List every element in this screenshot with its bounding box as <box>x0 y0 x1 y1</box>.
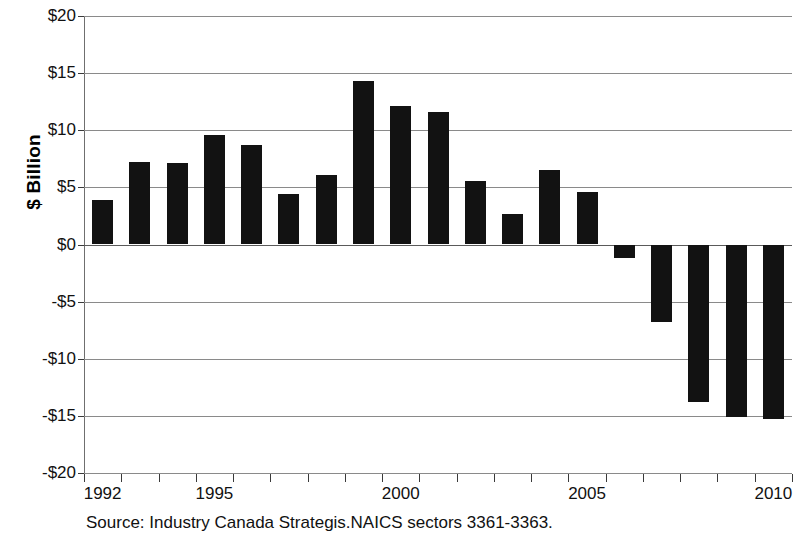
source-caption: Source: Industry Canada Strategis.NAICS … <box>86 513 553 533</box>
bar <box>316 175 337 245</box>
gridline <box>84 359 792 360</box>
bar <box>577 192 598 245</box>
bar <box>129 162 150 244</box>
bar-chart-figure: $ Billion $20$15$10$5$0-$5-$10-$15-$20 1… <box>0 0 800 544</box>
bar <box>241 145 262 244</box>
bar <box>390 106 411 244</box>
x-tick-mark <box>308 474 309 482</box>
bar <box>539 170 560 244</box>
bar <box>204 135 225 245</box>
bar <box>92 200 113 245</box>
x-tick-label: 2000 <box>382 484 420 504</box>
x-tick-mark <box>494 474 495 482</box>
bar <box>278 194 299 244</box>
y-tick-label: $0 <box>0 235 76 255</box>
x-tick-mark <box>568 474 569 482</box>
x-tick-mark <box>233 474 234 482</box>
y-tick-label: -$5 <box>0 292 76 312</box>
x-tick-mark <box>159 474 160 482</box>
y-tick-label: $5 <box>0 177 76 197</box>
x-tick-mark <box>717 474 718 482</box>
x-tick-label: 1995 <box>195 484 233 504</box>
x-tick-mark <box>606 474 607 482</box>
x-tick-mark <box>457 474 458 482</box>
bar <box>688 245 709 403</box>
x-tick-mark <box>792 474 793 482</box>
x-tick-mark <box>419 474 420 482</box>
x-tick-mark <box>345 474 346 482</box>
bar <box>167 163 188 244</box>
gridline <box>84 302 792 303</box>
x-tick-mark <box>270 474 271 482</box>
x-tick-mark <box>382 474 383 482</box>
x-tick-mark <box>531 474 532 482</box>
x-tick-label: 2005 <box>568 484 606 504</box>
x-tick-mark <box>196 474 197 482</box>
y-tick-label: $15 <box>0 63 76 83</box>
y-tick-label: -$20 <box>0 463 76 483</box>
bar <box>353 81 374 244</box>
gridline <box>84 245 792 246</box>
y-tick-label: $20 <box>0 6 76 26</box>
bar <box>428 112 449 245</box>
x-tick-label: 2010 <box>754 484 792 504</box>
x-tick-mark <box>755 474 756 482</box>
y-axis-title: $ Billion <box>14 92 54 252</box>
bar <box>651 245 672 323</box>
bar <box>465 181 486 245</box>
x-tick-mark <box>121 474 122 482</box>
y-tick-label: $10 <box>0 120 76 140</box>
gridline <box>84 73 792 74</box>
y-tick-label: -$15 <box>0 406 76 426</box>
x-tick-mark <box>643 474 644 482</box>
plot-area <box>84 16 792 473</box>
x-tick-label: 1992 <box>84 484 122 504</box>
bar <box>763 245 784 420</box>
gridline <box>84 16 792 17</box>
gridline <box>84 473 792 474</box>
bar <box>614 245 635 259</box>
bar <box>726 245 747 418</box>
gridline <box>84 416 792 417</box>
y-tick-label: -$10 <box>0 349 76 369</box>
bar <box>502 214 523 245</box>
x-tick-mark <box>84 474 85 482</box>
x-tick-mark <box>680 474 681 482</box>
